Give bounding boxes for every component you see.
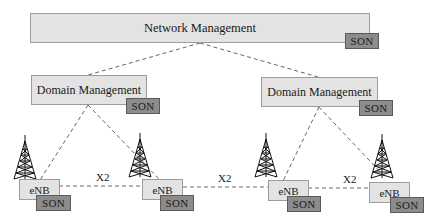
son-badge-domain-left: SON	[126, 98, 160, 114]
x2-label-2: X2	[218, 172, 231, 184]
domain-management-label: Domain Management	[37, 83, 141, 98]
link-nm-domain-left	[88, 43, 200, 75]
link-nm-domain-right	[200, 43, 318, 77]
son-badge-enb-1: SON	[36, 195, 71, 211]
son-badge-enb-4: SON	[390, 197, 424, 213]
link-domain-left-enb-1	[40, 105, 88, 180]
cell-tower-icon	[11, 135, 39, 181]
cell-tower-icon	[126, 133, 154, 179]
son-badge-enb-2: SON	[160, 195, 194, 211]
x2-label-3: X2	[343, 173, 356, 185]
son-badge-domain-right: SON	[359, 100, 393, 116]
cell-tower-icon	[368, 134, 396, 180]
cell-tower-icon	[252, 133, 280, 179]
network-management-box: Network Management	[30, 13, 370, 43]
son-badge-enb-3: SON	[287, 196, 321, 212]
network-management-label: Network Management	[144, 21, 256, 36]
link-domain-right-enb-3	[283, 107, 319, 181]
x2-label-1: X2	[96, 171, 109, 183]
son-badge-network-management: SON	[345, 33, 379, 49]
domain-management-label: Domain Management	[267, 85, 371, 100]
